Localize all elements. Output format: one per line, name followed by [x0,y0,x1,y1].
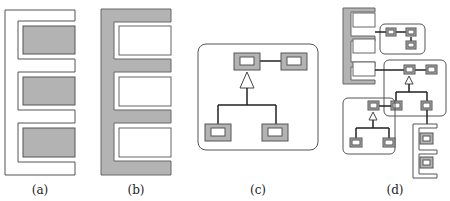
panel-a-label: (a) [20,183,60,197]
panel-d [343,8,446,178]
panel-b [101,9,171,175]
panel-b-label: (b) [116,183,156,197]
panel-c-label: (c) [238,183,278,197]
panel-c [198,44,318,150]
figure-canvas [0,0,450,201]
panel-d-label: (d) [375,183,415,197]
panel-a [5,10,75,175]
